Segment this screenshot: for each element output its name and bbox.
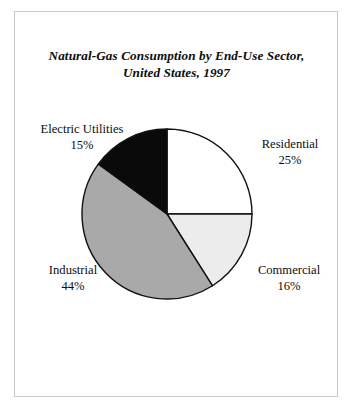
- slice-label-industrial: Industrial 44%: [21, 262, 125, 294]
- slice-label-industrial-name: Industrial: [21, 262, 125, 278]
- slice-label-commercial: Commercial 16%: [236, 262, 342, 294]
- slice-label-electric-utilities-value: 15%: [16, 137, 148, 153]
- slice-label-electric-utilities-name: Electric Utilities: [16, 121, 148, 137]
- slice-label-commercial-name: Commercial: [236, 262, 342, 278]
- slice-label-industrial-value: 44%: [21, 278, 125, 294]
- slice-label-residential-name: Residential: [238, 136, 342, 152]
- slice-label-residential-value: 25%: [238, 152, 342, 168]
- slice-label-residential: Residential 25%: [238, 136, 342, 168]
- slice-label-electric-utilities: Electric Utilities 15%: [16, 121, 148, 153]
- slice-label-commercial-value: 16%: [236, 278, 342, 294]
- pie-chart: [0, 0, 353, 413]
- pie-chart-svg: [0, 0, 353, 413]
